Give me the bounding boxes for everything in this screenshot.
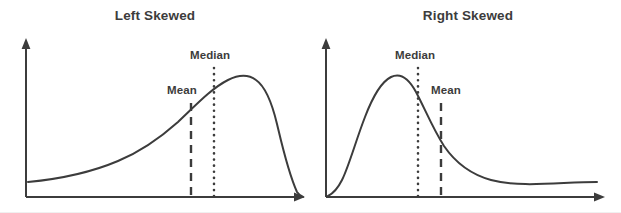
- median-label-right: Median: [395, 49, 435, 61]
- chart-panel-left-skewed: Left Skewed Median Mean: [0, 0, 310, 213]
- chart-panel-right-skewed: Right Skewed Median Mean: [311, 0, 621, 213]
- y-axis-left: [22, 38, 31, 197]
- median-label-left: Median: [190, 49, 230, 61]
- mean-label-left: Mean: [167, 84, 197, 96]
- figure-bottom-edge: [0, 212, 621, 213]
- mean-label-right: Mean: [431, 84, 461, 96]
- right-skewed-plot: [311, 0, 621, 213]
- figure-canvas: Left Skewed Median Mean Right Skewed: [0, 0, 621, 213]
- left-skewed-plot: [0, 0, 310, 213]
- x-axis-right: [326, 193, 605, 202]
- density-curve-left: [28, 76, 303, 197]
- x-axis-left: [26, 193, 305, 202]
- density-curve-right: [328, 75, 597, 196]
- y-axis-right: [322, 38, 331, 197]
